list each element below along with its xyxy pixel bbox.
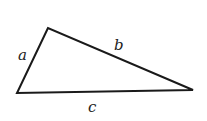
side-label-c: c [88,98,97,116]
triangle-diagram: a b c [0,0,207,121]
side-label-a: a [18,46,27,64]
triangle [17,28,193,93]
side-label-b: b [114,36,124,54]
